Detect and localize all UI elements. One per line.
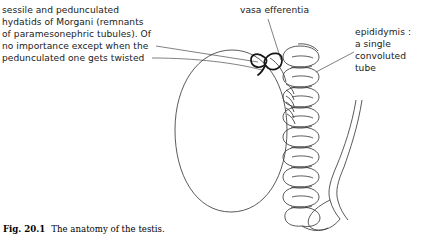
leader-line-epididymis [316,52,354,72]
label-vasa-efferentia: vasa efferentia [240,4,350,16]
label-epididymis: epididymis : a single convoluted tube [355,26,423,74]
figure-caption-number: Fig. 20.1 [3,224,51,234]
testis-outline [175,50,287,212]
epididymis-coil [283,44,320,227]
figure-caption-text: The anatomy of the testis. [51,224,164,234]
figure-caption: Fig. 20.1 The anatomy of the testis. [3,224,165,235]
figure-panel: sessile and pedunculated hydatids of Mor… [0,0,423,245]
label-hydatids-of-morgani: sessile and pedunculated hydatids of Mor… [2,4,178,64]
vas-deferens [308,100,362,230]
